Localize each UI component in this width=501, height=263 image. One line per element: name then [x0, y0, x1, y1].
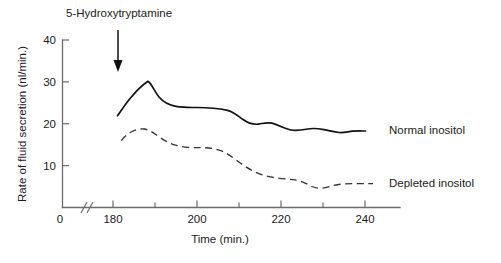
series-line-depleted-inositol — [121, 129, 373, 188]
figure-container: 40 30 20 10 0 Rate of fluid secretion (n… — [0, 0, 501, 263]
y-tick-label-20: 20 — [43, 118, 56, 130]
x-tick-label-180: 180 — [103, 213, 122, 225]
y-tick-label-0: 0 — [57, 213, 63, 225]
x-tick-label-220: 220 — [271, 213, 290, 225]
line-chart: 40 30 20 10 0 Rate of fluid secretion (n… — [0, 0, 501, 263]
annotation-arrow-head-icon — [114, 60, 123, 72]
x-axis-title: Time (min.) — [191, 233, 249, 245]
x-tick-label-200: 200 — [187, 213, 206, 225]
series-label-normal-inositol: Normal inositol — [389, 124, 465, 136]
annotation-label-5-hydroxytryptamine: 5-Hydroxytryptamine — [66, 7, 172, 19]
series-line-normal-inositol — [118, 81, 366, 132]
y-tick-label-40: 40 — [43, 34, 56, 46]
series-label-depleted-inositol: Depleted inositol — [389, 177, 474, 189]
x-tick-label-240: 240 — [355, 213, 374, 225]
y-tick-label-30: 30 — [43, 76, 56, 88]
y-axis-title: Rate of fluid secretion (nl/min.) — [16, 46, 28, 202]
y-tick-label-10: 10 — [43, 160, 56, 172]
